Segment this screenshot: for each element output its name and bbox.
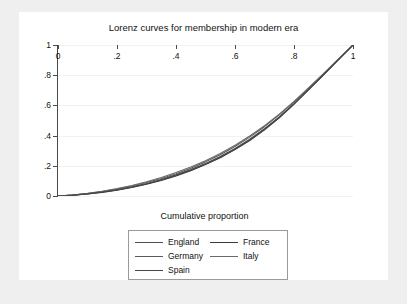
x-tick-mark xyxy=(176,45,177,49)
y-tick-mark xyxy=(53,196,57,197)
legend-item-italy[interactable]: Italy xyxy=(210,249,281,263)
y-tick-mark xyxy=(53,45,57,46)
legend-grid: EnglandFranceGermanyItalySpain xyxy=(135,235,281,277)
y-tick-mark xyxy=(53,136,57,137)
y-tick-mark xyxy=(53,75,57,76)
x-tick-label: .4 xyxy=(172,51,179,61)
series-line-france xyxy=(58,45,353,196)
legend-swatch-england xyxy=(135,242,163,243)
x-tick-label: 0 xyxy=(56,51,61,61)
legend-label: Germany xyxy=(168,251,203,261)
x-tick-label: .6 xyxy=(231,51,238,61)
series-line-england xyxy=(58,45,353,196)
y-tick-label: 1 xyxy=(46,40,51,50)
x-tick-mark xyxy=(58,45,59,49)
legend-item-france[interactable]: France xyxy=(210,235,281,249)
y-tick-mark xyxy=(53,105,57,106)
y-tick-label: 0 xyxy=(46,191,51,201)
y-tick-label: .2 xyxy=(44,161,51,171)
legend-label: Spain xyxy=(168,265,190,275)
x-tick-label: .2 xyxy=(113,51,120,61)
series-line-germany xyxy=(58,45,353,196)
x-tick-mark xyxy=(235,45,236,49)
legend-swatch-spain xyxy=(135,270,163,271)
gridline xyxy=(58,196,353,197)
series-line-italy xyxy=(58,45,353,196)
chart-screenshot: Lorenz curves for membership in modern e… xyxy=(0,0,407,304)
y-tick-label: .8 xyxy=(44,70,51,80)
x-tick-mark xyxy=(117,45,118,49)
y-tick-label: .4 xyxy=(44,131,51,141)
y-tick-mark xyxy=(53,166,57,167)
legend-item-england[interactable]: England xyxy=(135,235,206,249)
legend-swatch-france xyxy=(210,242,238,243)
lorenz-curves xyxy=(58,45,353,196)
x-tick-mark xyxy=(294,45,295,49)
series-line-spain xyxy=(58,45,353,196)
x-tick-mark xyxy=(353,45,354,49)
chart-legend: EnglandFranceGermanyItalySpain xyxy=(128,230,288,280)
legend-label: Italy xyxy=(243,251,259,261)
x-tick-label: .8 xyxy=(290,51,297,61)
legend-swatch-germany xyxy=(135,256,163,257)
legend-label: France xyxy=(243,237,269,247)
chart-title: Lorenz curves for membership in modern e… xyxy=(19,22,388,33)
legend-label: England xyxy=(168,237,199,247)
x-axis-title: Cumulative proportion xyxy=(57,211,352,221)
legend-item-germany[interactable]: Germany xyxy=(135,249,206,263)
x-tick-label: 1 xyxy=(351,51,356,61)
legend-item-spain[interactable]: Spain xyxy=(135,263,206,277)
plot-area: 0.2.4.6.81 0.2.4.6.81 xyxy=(57,45,353,197)
y-tick-label: .6 xyxy=(44,100,51,110)
legend-swatch-italy xyxy=(210,256,238,257)
